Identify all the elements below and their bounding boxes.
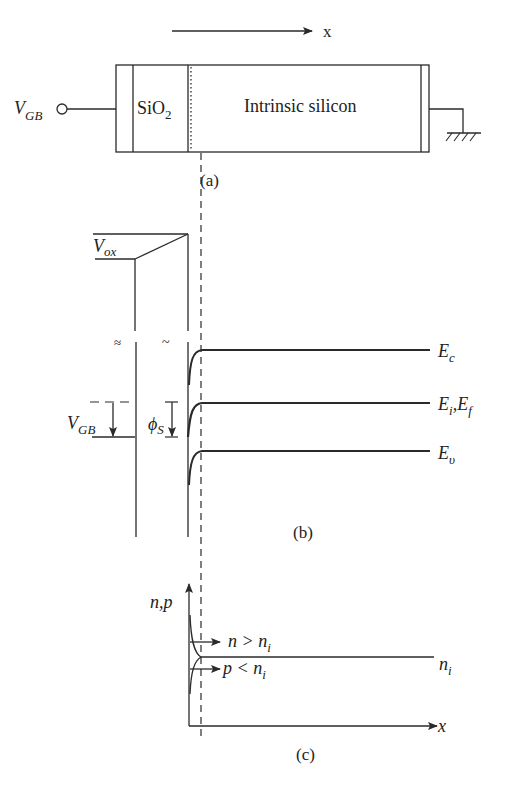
electron-concentration-curve: [190, 615, 201, 657]
panel-c: n,p x n > ni p < ni ni (c): [150, 584, 452, 764]
ev-label: Eυ: [437, 443, 455, 467]
intrinsic-fermi-level: [188, 403, 430, 437]
axis-break-icon: ≈: [114, 335, 121, 350]
mos-band-diagram: x SiO2 Intrinsic silicon VGB (a) Vox: [0, 0, 507, 792]
p-less-ni-label: p < ni: [221, 658, 266, 682]
ec-label: Ec: [437, 341, 455, 365]
axis-break-icon: ~: [162, 335, 170, 350]
caption-a: (a): [200, 171, 219, 190]
conduction-band-edge: [189, 350, 430, 385]
y-axis-label: n,p: [150, 592, 173, 612]
vgb-terminal-label: VGB: [14, 98, 42, 123]
hole-concentration-curve: [190, 657, 201, 694]
silicon-label: Intrinsic silicon: [244, 96, 356, 116]
oxide-label: SiO2: [137, 98, 172, 122]
n-greater-ni-label: n > ni: [228, 631, 271, 655]
oxide-slope-line: [135, 234, 188, 259]
caption-c: (c): [296, 745, 315, 764]
caption-b: (b): [293, 523, 313, 542]
panel-b: Vox ≈ ~ VGB ϕS Ec Ei,Ef Eυ (b): [67, 234, 474, 542]
ei-ef-label: Ei,Ef: [437, 394, 474, 418]
ground-icon: [429, 109, 481, 141]
x-direction-label: x: [323, 22, 332, 41]
gate-terminal-icon: [57, 104, 67, 114]
ni-label: ni: [439, 654, 452, 678]
vox-label: Vox: [93, 236, 117, 259]
vgb-label: VGB: [67, 413, 95, 437]
x-axis-label: x: [437, 716, 446, 736]
phis-label: ϕS: [148, 414, 164, 437]
panel-a: x SiO2 Intrinsic silicon VGB (a): [14, 22, 481, 190]
valence-band-edge: [189, 451, 430, 485]
